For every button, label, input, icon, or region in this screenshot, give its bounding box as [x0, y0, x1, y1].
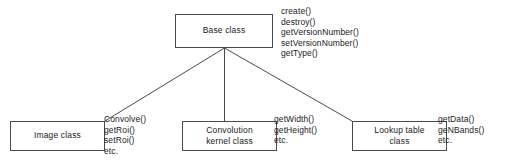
class-name-lookup-table-class: Lookup table class — [374, 125, 424, 148]
edge-base-to-image-class — [105, 48, 225, 121]
class-name-convolution-kernel-class: Convolution kernel class — [206, 125, 253, 148]
class-box-convolution-kernel-class: Convolution kernel class — [182, 121, 277, 151]
method-item: geNBands() — [438, 125, 484, 136]
method-item: Convolve() — [104, 114, 146, 125]
class-box-image-class: Image class — [10, 121, 105, 151]
method-item: setVersionNumber() — [281, 38, 359, 49]
class-box-base-class: Base class — [175, 14, 273, 48]
class-box-lookup-table-class: Lookup table class — [352, 121, 447, 151]
method-item: create() — [281, 6, 359, 17]
method-list-image-class: Convolve() getRoi() setRoi() etc. — [104, 114, 146, 156]
method-item: getVersionNumber() — [281, 27, 359, 38]
method-item: setRoi() — [104, 135, 146, 146]
method-item: destroy() — [281, 17, 359, 28]
method-item: etc. — [104, 146, 146, 157]
method-item: getData() — [438, 114, 484, 125]
class-name-base-class: Base class — [203, 25, 246, 37]
method-item: getType() — [281, 48, 359, 59]
method-item: getRoi() — [104, 125, 146, 136]
class-diagram: Base class create() destroy() getVersion… — [0, 0, 506, 164]
method-list-convolution-kernel-class: getWidth() getHeight() etc. — [274, 114, 317, 146]
method-list-lookup-table-class: getData() geNBands() etc. — [438, 114, 484, 146]
class-name-image-class: Image class — [34, 130, 81, 142]
method-item: getHeight() — [274, 125, 317, 136]
method-item: etc. — [274, 135, 317, 146]
method-item: getWidth() — [274, 114, 317, 125]
method-item: etc. — [438, 135, 484, 146]
method-list-base-class: create() destroy() getVersionNumber() se… — [281, 6, 359, 59]
